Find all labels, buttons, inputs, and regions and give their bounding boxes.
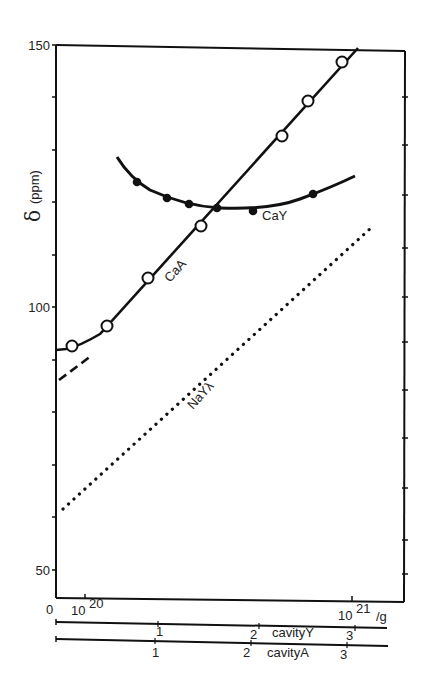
- series-caa-markers: [67, 57, 348, 352]
- svg-text:10: 10: [338, 608, 352, 623]
- y-tick-label-50: 50: [36, 563, 50, 578]
- svg-text:10: 10: [71, 603, 85, 618]
- cavity-a-axis: 1 2 3 cavityA: [56, 636, 388, 662]
- cavity-a-tick-3: 3: [340, 647, 347, 662]
- cavity-a-tick-1: 1: [152, 645, 159, 660]
- y-axis-title: δ (ppm): [21, 170, 45, 222]
- cavity-a-label: cavityA: [267, 645, 309, 660]
- x-unit-label: /g: [376, 609, 387, 624]
- x-tick-label-0: 0: [46, 602, 53, 617]
- series-caa-extrapolation: [59, 356, 91, 380]
- y-tick-label-150: 150: [28, 38, 50, 53]
- chart: 150 100 50 δ (ppm) 0 10 20 10 21 /g NaYλ…: [0, 0, 433, 685]
- cavity-a-tick-2: 2: [243, 645, 250, 660]
- cavity-y-tick-3: 3: [346, 628, 353, 643]
- series-nay-line: [63, 227, 372, 509]
- cavity-y-tick-2: 2: [250, 627, 257, 642]
- svg-text:20: 20: [89, 596, 103, 611]
- series-cay-label: CaY: [262, 208, 288, 223]
- x-tick-label-1e21: 10 21: [338, 601, 370, 623]
- cavity-y-tick-1: 1: [156, 624, 163, 639]
- ppm-unit: (ppm): [27, 170, 42, 204]
- delta-symbol: δ: [21, 210, 45, 222]
- cavity-y-label: cavityY: [272, 625, 314, 640]
- y-tick-label-100: 100: [28, 300, 50, 315]
- svg-text:21: 21: [356, 601, 370, 616]
- series-caa-line: [56, 48, 358, 350]
